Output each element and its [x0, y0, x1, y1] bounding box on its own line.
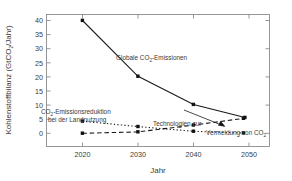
x-tick-label: 2020: [75, 150, 91, 159]
y-tick-label: 15: [35, 87, 43, 96]
x-tick-label: 2040: [186, 150, 202, 159]
annotation-global-emissions: Globale CO2-Emissionen: [116, 54, 188, 63]
y-tick-label: 20: [35, 73, 43, 82]
data-point-marker: [136, 75, 139, 78]
data-point-marker: [136, 130, 139, 133]
y-tick-label: 35: [35, 30, 43, 39]
svg-text:Kohlenstoffbilanz (GtCO2/Jahr): Kohlenstoffbilanz (GtCO2/Jahr): [4, 25, 14, 134]
data-point-marker: [81, 19, 84, 22]
y-tick-label: 25: [35, 59, 43, 68]
annotation-avoidance-tech-line2: Vermeidung von CO2: [206, 129, 267, 138]
y-tick-labels: 40 35 30 25 20 15 10 5 0: [35, 16, 43, 138]
data-point-marker: [243, 116, 246, 119]
data-point-marker: [192, 130, 195, 133]
annotation-global-emissions-main: Globale CO: [116, 54, 149, 61]
data-point-marker: [136, 125, 139, 128]
annotation-land-use: CO2-Emissionsreduktion bei der Landnutzu…: [41, 108, 111, 124]
annotation-avoidance-tech-line2-main: Vermeidung von CO: [206, 129, 264, 137]
y-tick-label: 5: [39, 115, 43, 124]
x-tick-label: 2050: [241, 150, 257, 159]
y-tick-label: 30: [35, 44, 43, 53]
chart-canvas: 40 35 30 25 20 15 10 5 0 2020 2030 2040: [0, 0, 292, 181]
y-tick-label: 40: [35, 16, 43, 25]
data-point-marker: [81, 132, 84, 135]
annotation-land-use-line1-tail: -Emissionsreduktion: [53, 108, 111, 115]
series-global-emissions: [81, 19, 247, 119]
x-tick-labels: 2020 2030 2040 2050: [75, 150, 258, 159]
annotation-land-use-line2: bei der Landnutzung: [48, 116, 107, 124]
annotation-avoidance-tech-line1: Technologien zur: [153, 120, 202, 128]
data-point-marker: [192, 103, 195, 106]
chart-figure: 40 35 30 25 20 15 10 5 0 2020 2030 2040: [0, 0, 292, 181]
x-axis-title: Jahr: [150, 166, 166, 175]
y-axis-title-main: Kohlenstoffbilanz (GtCO: [4, 48, 13, 134]
annotation-global-emissions-tail: -Emissionen: [152, 54, 188, 61]
y-tick-label: 0: [39, 129, 43, 138]
annotation-avoidance-tech-line2-sub: 2: [264, 133, 267, 138]
y-axis-title: Kohlenstoffbilanz (GtCO2/Jahr): [4, 25, 14, 134]
annotation-avoidance-tech: Technologien zur Vermeidung von CO2: [153, 110, 267, 138]
y-axis-title-tail: /Jahr): [4, 25, 13, 46]
x-tick-label: 2030: [130, 150, 146, 159]
annotation-land-use-line1-main: CO: [41, 108, 51, 115]
